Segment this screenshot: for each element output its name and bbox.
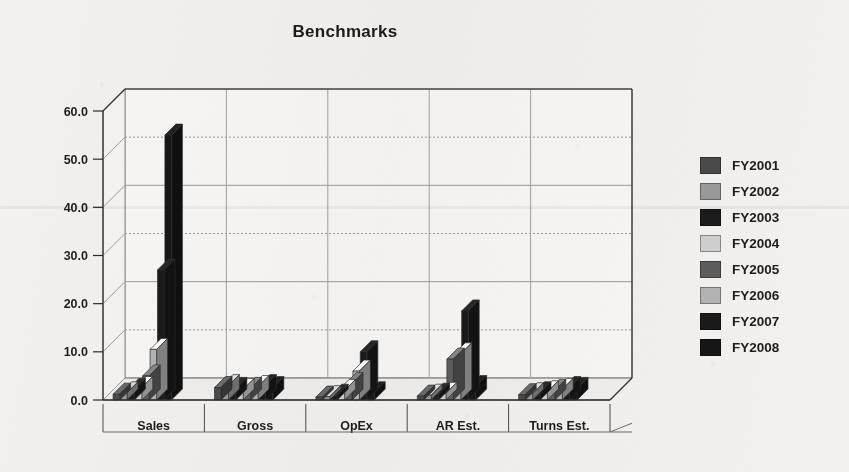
legend-item: FY2006 [700,282,779,308]
chart-legend: FY2001FY2002FY2003FY2004FY2005FY2006FY20… [700,152,779,360]
legend-item: FY2004 [700,230,779,256]
legend-label: FY2001 [732,158,779,173]
legend-swatch [700,183,721,200]
y-axis-tick-label: 60.0 [64,105,88,119]
y-axis-tick-label: 50.0 [64,153,88,167]
x-axis-category-label: Turns Est. [529,419,589,433]
legend-item: FY2003 [700,204,779,230]
x-axis-category-label: Gross [237,419,273,433]
legend-swatch [700,235,721,252]
legend-swatch [700,339,721,356]
legend-label: FY2008 [732,340,779,355]
bar-front-face [113,394,120,400]
chart-title: Benchmarks [0,22,690,42]
bar-front-face [519,395,526,400]
y-axis-tick-label: 40.0 [64,201,88,215]
y-axis-tick-label: 10.0 [64,345,88,359]
legend-item: FY2001 [700,152,779,178]
legend-label: FY2007 [732,314,779,329]
legend-swatch [700,261,721,278]
y-axis-tick-label: 30.0 [64,249,88,263]
legend-item: FY2002 [700,178,779,204]
legend-swatch [700,313,721,330]
legend-item: FY2008 [700,334,779,360]
legend-swatch [700,209,721,226]
legend-label: FY2006 [732,288,779,303]
legend-label: FY2002 [732,184,779,199]
legend-swatch [700,157,721,174]
y-axis-tick-label: 0.0 [71,394,88,408]
x-axis-category-label: Sales [137,419,170,433]
legend-item: FY2005 [700,256,779,282]
legend-label: FY2004 [732,236,779,251]
y-axis-tick-label: 20.0 [64,297,88,311]
x-axis-category-label: AR Est. [436,419,480,433]
x-label-baseline-depth [610,423,632,432]
legend-swatch [700,287,721,304]
legend-label: FY2005 [732,262,779,277]
y-axis-labels: 0.010.020.030.040.050.060.0 [64,105,88,408]
x-axis-labels: SalesGrossOpExAR Est.Turns Est. [103,404,632,433]
x-axis-category-label: OpEx [340,419,373,433]
legend-item: FY2007 [700,308,779,334]
legend-label: FY2003 [732,210,779,225]
bar-front-face [215,388,222,401]
